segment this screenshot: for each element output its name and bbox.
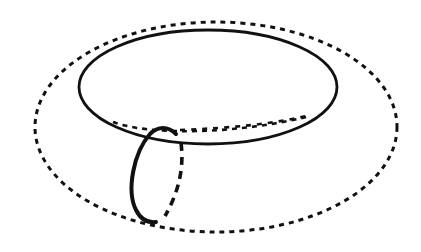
- background: [0, 0, 421, 252]
- torus-diagram: [0, 0, 421, 252]
- torus-svg: [0, 0, 421, 252]
